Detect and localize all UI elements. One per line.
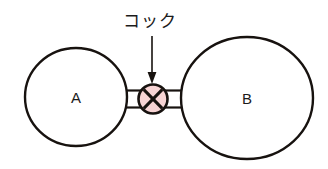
flask-stopcock-diagram: A B コック [0, 0, 328, 169]
callout-arrow-head [148, 72, 157, 84]
stopcock-valve [139, 85, 168, 114]
vessel-b: B [181, 37, 313, 159]
vessel-a: A [25, 48, 127, 146]
diagram-canvas: A B コック [0, 0, 328, 169]
callout-arrow [148, 36, 157, 84]
vessel-b-label: B [242, 90, 252, 107]
stopcock-callout-label: コック [123, 11, 177, 31]
vessel-a-label: A [71, 89, 81, 106]
